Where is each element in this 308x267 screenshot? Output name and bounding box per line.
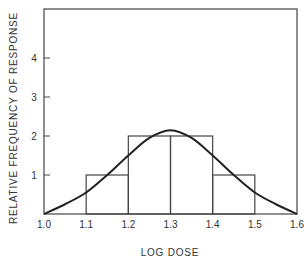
x-tick-label: 1.6: [290, 219, 304, 230]
histogram-chart: 1234 1.01.11.21.31.41.51.6 LOG DOSE RELA…: [0, 0, 308, 267]
x-tick-label: 1.1: [79, 219, 93, 230]
x-tick-label: 1.0: [37, 219, 51, 230]
histogram-bars: [86, 136, 255, 214]
y-axis-title: RELATIVE FREQUENCY OF RESPONSE: [8, 12, 19, 224]
y-tick-label: 1: [31, 170, 37, 181]
histogram-bar: [86, 175, 128, 214]
histogram-bar: [128, 136, 170, 214]
x-tick-label: 1.5: [248, 219, 262, 230]
x-axis-title: LOG DOSE: [141, 247, 200, 258]
x-tick-label: 1.2: [121, 219, 135, 230]
x-tick-label: 1.3: [164, 219, 178, 230]
y-tick-label: 2: [31, 131, 37, 142]
y-tick-label: 3: [31, 92, 37, 103]
x-tick-label: 1.4: [206, 219, 220, 230]
histogram-bar: [213, 175, 255, 214]
y-tick-label: 4: [31, 53, 37, 64]
y-axis-ticks: 1234: [31, 53, 50, 181]
x-axis-ticks: 1.01.11.21.31.41.51.6: [37, 219, 304, 230]
histogram-bar: [171, 136, 213, 214]
